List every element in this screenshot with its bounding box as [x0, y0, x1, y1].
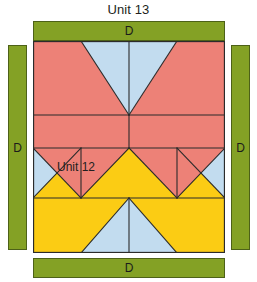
patch-row2-red-right [129, 115, 225, 148]
sashing-label-right: D [236, 142, 245, 154]
quilt-block-unit-12: Unit 12 [33, 41, 225, 253]
quilt-diagram-page: Unit 13 D D D D Unit 12 [0, 0, 257, 282]
quilt-block-svg [33, 41, 225, 253]
patch-row2-red-left [33, 115, 129, 148]
sashing-strip-bottom: D [33, 258, 225, 278]
sashing-strip-left: D [8, 45, 27, 250]
sashing-label-bottom: D [125, 262, 134, 274]
sashing-strip-right: D [231, 45, 250, 250]
sashing-label-left: D [13, 142, 22, 154]
sashing-label-top: D [125, 25, 134, 37]
sashing-strip-top: D [33, 21, 225, 41]
page-title: Unit 13 [0, 2, 257, 18]
